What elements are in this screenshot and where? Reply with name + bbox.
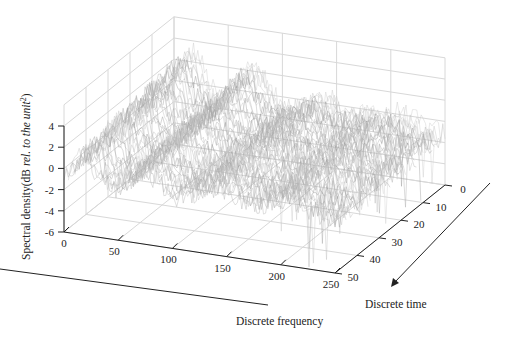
- x-tick-label: 0: [61, 237, 67, 249]
- surface-plot: 05010015020025001020304050420-2-4-6 Disc…: [0, 0, 507, 341]
- x-axis-title: Discrete frequency: [236, 315, 323, 328]
- frequency-direction-line: [0, 269, 268, 305]
- z-tick-label: -2: [45, 184, 54, 196]
- z-axis-title-close: ): [20, 93, 33, 97]
- x-tick-label: 250: [323, 278, 340, 290]
- y-axis-title: Discrete time: [365, 298, 427, 310]
- z-tick-label: 2: [49, 141, 55, 153]
- y-tick-label: 40: [370, 253, 382, 265]
- y-tick-label: 10: [436, 201, 448, 213]
- z-axis-title-italic: rel. to the unit: [20, 101, 32, 167]
- y-tick-label: 0: [460, 183, 466, 195]
- x-tick-label: 200: [269, 270, 286, 282]
- x-tick-label: 150: [214, 262, 231, 274]
- z-axis-title-main: Spectral density(dB: [20, 166, 33, 260]
- z-axis-title: Spectral density(dB rel. to the unit2): [19, 93, 34, 260]
- y-tick-label: 20: [414, 218, 426, 230]
- y-tick-label: 50: [348, 271, 360, 283]
- y-tick-label: 30: [392, 236, 404, 248]
- z-tick-label: -4: [45, 205, 55, 217]
- spectral-surface: [64, 43, 445, 267]
- z-tick-label: 0: [49, 162, 55, 174]
- z-tick-label: -6: [45, 226, 55, 238]
- x-tick-label: 50: [109, 245, 121, 257]
- z-tick-label: 4: [49, 120, 55, 132]
- x-tick-label: 100: [160, 253, 177, 265]
